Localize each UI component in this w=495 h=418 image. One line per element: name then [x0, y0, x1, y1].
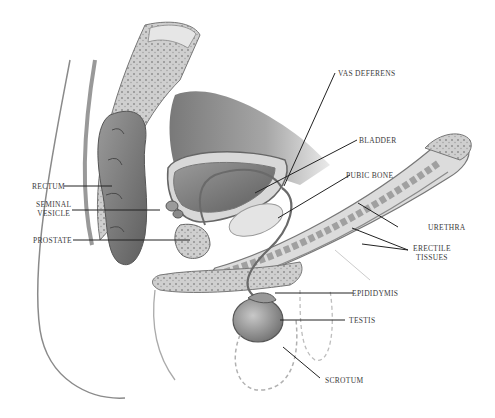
label-urethra: URETHRA [428, 223, 466, 232]
label-rectum: RECTUM [32, 182, 65, 191]
label-erectile-tissues: ERECTILE TISSUES [413, 244, 451, 262]
label-scrotum: SCROTUM [325, 376, 363, 385]
anatomy-diagram: RECTUM SEMINAL VESICLE PROSTATE VAS DEFE… [0, 0, 495, 418]
anatomy-illustration [0, 0, 495, 418]
label-prostate: PROSTATE [33, 236, 72, 245]
label-vas-deferens: VAS DEFERENS [338, 69, 395, 78]
label-seminal-vesicle: SEMINAL VESICLE [36, 200, 71, 218]
label-pubic-bone: PUBIC BONE [346, 171, 393, 180]
label-testis: TESTIS [349, 316, 375, 325]
prostate [175, 224, 210, 258]
rectum [98, 111, 147, 264]
label-epididymis: EPIDIDYMIS [352, 289, 398, 298]
label-bladder: BLADDER [359, 136, 397, 145]
